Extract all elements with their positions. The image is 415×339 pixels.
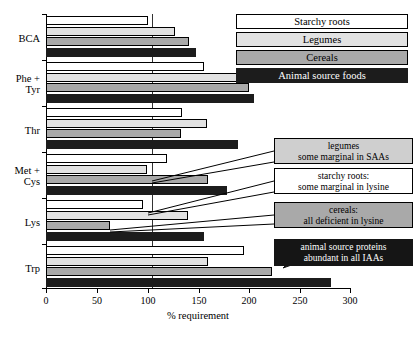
callout-legumes-line1: legumes [275, 141, 412, 152]
y-tick-2 [42, 106, 47, 107]
x-tick-label-150: 150 [179, 295, 219, 306]
legend-item-starchy-roots[interactable]: Starchy roots [236, 14, 408, 29]
y-label-met-cys-line1: Met + [0, 165, 40, 176]
x-tick-label-200: 200 [229, 295, 269, 306]
callout-animal-line2: abundant in all IAAs [275, 253, 412, 264]
callout-animal-line1: animal source proteins [275, 242, 412, 253]
x-tick-label-50: 50 [77, 295, 117, 306]
y-label-met-cys-line2: Cys [0, 176, 40, 187]
x-tick-50 [97, 288, 98, 293]
bar-trp-animal [46, 278, 331, 287]
callout-cereals-line2: all deficient in lysine [275, 216, 412, 227]
callout-starchy-line1: starchy roots: [275, 171, 412, 182]
x-tick-200 [249, 288, 250, 293]
y-label-phe-tyr: Phe + Tyr [0, 73, 40, 95]
y-tick-3 [42, 152, 47, 153]
bar-phe-tyr-starchy [46, 62, 204, 71]
legend: Starchy roots Legumes Cereals Animal sou… [236, 14, 408, 86]
legend-label-cereals: Cereals [306, 52, 338, 63]
y-label-thr: Thr [0, 125, 40, 136]
bar-met-cys-animal [46, 186, 227, 195]
y-label-met-cys: Met + Cys [0, 165, 40, 187]
bar-trp-cereals [46, 267, 272, 276]
callout-animal-source-proteins: animal source proteins abundant in all I… [274, 239, 413, 266]
y-label-bca: BCA [0, 33, 40, 44]
x-tick-label-250: 250 [280, 295, 320, 306]
bar-chart: 0 50 100 150 200 250 300 BCA Phe + Tyr T… [0, 0, 415, 339]
legend-item-legumes[interactable]: Legumes [236, 32, 408, 47]
legend-item-animal-source-foods[interactable]: Animal source foods [236, 68, 408, 83]
bar-thr-starchy [46, 108, 182, 117]
callout-legumes-saas: legumes some marginal in SAAs [274, 138, 413, 164]
x-tick-100 [148, 288, 149, 293]
y-tick-4 [42, 198, 47, 199]
callout-cereals-lysine: cereals: all deficient in lysine [274, 202, 413, 228]
x-tick-250 [300, 288, 301, 293]
bar-thr-legumes [46, 119, 207, 128]
bar-bca-animal [46, 48, 196, 57]
y-tick-6 [42, 288, 47, 289]
bar-met-cys-starchy [46, 154, 167, 163]
y-label-phe-tyr-line2: Tyr [0, 84, 40, 95]
y-label-thr-text: Thr [0, 125, 40, 136]
bar-lys-legumes [46, 211, 188, 220]
x-tick-label-100: 100 [128, 295, 168, 306]
bar-bca-cereals [46, 37, 189, 46]
y-label-phe-tyr-line1: Phe + [0, 73, 40, 84]
bar-bca-legumes [46, 27, 175, 36]
bar-phe-tyr-animal [46, 94, 254, 103]
bar-met-cys-legumes [46, 165, 147, 174]
bar-lys-animal [46, 232, 204, 241]
legend-label-animal-source-foods: Animal source foods [278, 70, 365, 81]
callout-starchy-line2: some marginal in lysine [275, 182, 412, 193]
legend-label-starchy-roots: Starchy roots [294, 16, 350, 27]
bar-phe-tyr-legumes [46, 73, 244, 82]
x-axis-title: % requirement [46, 310, 350, 321]
x-tick-label-0: 0 [26, 295, 66, 306]
y-label-trp: Trp [0, 263, 40, 274]
y-label-lys-text: Lys [0, 217, 40, 228]
legend-item-cereals[interactable]: Cereals [236, 50, 408, 65]
bar-thr-cereals [46, 129, 181, 138]
legend-label-legumes: Legumes [303, 34, 342, 45]
x-tick-150 [199, 288, 200, 293]
bar-lys-cereals [46, 221, 110, 230]
y-tick-0 [42, 14, 47, 15]
bar-trp-legumes [46, 257, 208, 266]
bar-bca-starchy [46, 16, 148, 25]
y-tick-1 [42, 60, 47, 61]
x-tick-label-300: 300 [330, 295, 370, 306]
bar-thr-animal [46, 140, 238, 149]
x-axis-line [46, 288, 350, 289]
callout-starchy-roots-lysine: starchy roots: some marginal in lysine [274, 168, 413, 194]
callout-cereals-line1: cereals: [275, 205, 412, 216]
x-tick-300 [350, 288, 351, 293]
bar-phe-tyr-cereals [46, 83, 249, 92]
y-label-bca-text: BCA [0, 33, 40, 44]
bar-met-cys-cereals [46, 175, 208, 184]
y-tick-5 [42, 244, 47, 245]
bar-lys-starchy [46, 200, 143, 209]
bar-trp-starchy [46, 246, 244, 255]
y-label-lys: Lys [0, 217, 40, 228]
y-label-trp-text: Trp [0, 263, 40, 274]
callout-legumes-line2: some marginal in SAAs [275, 152, 412, 163]
